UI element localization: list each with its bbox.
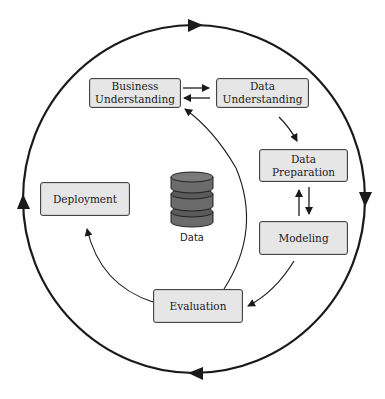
phase-label: Modeling [278, 232, 328, 245]
cycle-arrow-right-icon [359, 192, 372, 207]
phase-deployment[interactable]: Deployment [40, 182, 130, 216]
phase-label-line1: Data [223, 80, 303, 93]
phase-label-line1: Data [272, 153, 335, 166]
phase-data-preparation[interactable]: Data Preparation [259, 149, 348, 182]
cycle-arrow-left-icon [17, 194, 30, 209]
phase-label: Evaluation [170, 300, 227, 313]
phase-label-line2: Preparation [272, 166, 335, 179]
phase-evaluation[interactable]: Evaluation [153, 289, 243, 323]
phase-label-line2: Understanding [223, 93, 303, 106]
phase-data-understanding[interactable]: Data Understanding [216, 78, 309, 108]
phase-label: Deployment [53, 193, 117, 206]
arrow-mod-to-eval [248, 261, 294, 306]
cycle-arrow-bottom-icon [188, 367, 203, 380]
cycle-arrow-top-icon [188, 19, 203, 32]
phase-label-line1: Business [95, 80, 175, 93]
data-label: Data [172, 232, 212, 243]
arrow-du-to-dp [279, 117, 297, 141]
phase-business-understanding[interactable]: Business Understanding [89, 78, 181, 108]
phase-modeling[interactable]: Modeling [259, 221, 348, 255]
phase-label-line2: Understanding [95, 93, 175, 106]
arrow-eval-to-dep [87, 229, 153, 302]
database-icon [171, 172, 213, 227]
